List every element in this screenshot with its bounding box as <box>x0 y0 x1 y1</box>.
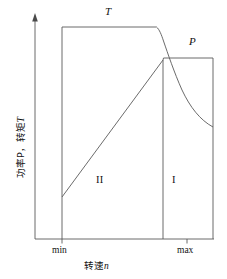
y-axis-title-power: 功率P <box>15 152 26 178</box>
y-axis-arrow-icon <box>32 13 38 22</box>
power-curve <box>62 58 213 197</box>
y-axis-title-torque: 转矩 <box>15 122 26 142</box>
x-axis-title-text: 转速 <box>84 260 104 271</box>
power-curve-label: P <box>189 36 196 47</box>
x-tick-label-min: min <box>52 246 67 256</box>
y-axis-title-separator: ， <box>15 142 26 152</box>
y-axis-title-torque-symbol: T <box>16 117 26 122</box>
x-axis-title: 转速n <box>84 261 109 272</box>
engine-characteristic-figure: T P II I min max 转速n 功率P，转矩T <box>0 0 227 279</box>
x-axis-title-symbol: n <box>104 261 109 271</box>
torque-curve-label: T <box>105 6 111 17</box>
y-axis-title: 功率P，转矩T <box>16 117 27 178</box>
region-two-label: II <box>96 175 103 186</box>
x-tick-label-max: max <box>177 246 193 256</box>
region-one-label: I <box>172 175 176 186</box>
